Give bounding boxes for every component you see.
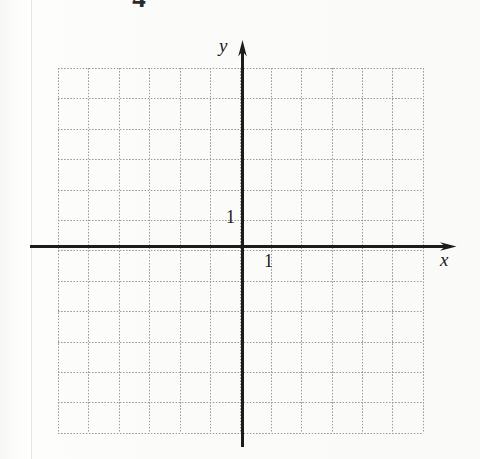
x-axis-tick-label-1: 1 — [264, 252, 273, 270]
gridline-vertical — [423, 68, 424, 433]
x-axis-label: x — [440, 250, 448, 269]
coordinate-plane: x y 1 1 — [0, 0, 480, 459]
y-axis-tick-label-1: 1 — [226, 208, 235, 226]
y-axis-label: y — [219, 36, 227, 55]
arrow-up-icon — [234, 40, 251, 57]
y-axis-line — [241, 47, 244, 447]
worksheet-page: 4 x y 1 1 — [0, 0, 480, 459]
